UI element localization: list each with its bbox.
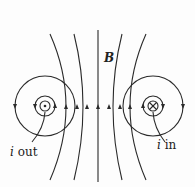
dot-out-icon (44, 105, 47, 108)
left-wire-label: i out (10, 145, 37, 159)
field-diagram: B i out i in (0, 0, 195, 187)
field-label: B (104, 51, 114, 65)
left-leader (32, 112, 45, 142)
field-line-left-2 (50, 34, 66, 180)
right-wire-label: i in (157, 138, 176, 152)
